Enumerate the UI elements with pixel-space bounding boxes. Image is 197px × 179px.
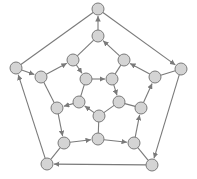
directed-edge: [103, 41, 120, 56]
dodecahedron-graph: [0, 0, 197, 179]
edge: [81, 85, 85, 97]
graph-node-n13: [135, 102, 147, 114]
graph-node-n9: [106, 73, 118, 85]
directed-edge: [144, 83, 153, 102]
directed-edge: [22, 70, 35, 75]
directed-edge: [135, 115, 139, 137]
directed-edge: [70, 140, 91, 143]
edge: [77, 40, 93, 56]
edge: [161, 71, 176, 75]
directed-edge: [103, 13, 175, 65]
edge: [104, 105, 114, 112]
graph-node-n14: [93, 110, 105, 122]
directed-edge: [85, 106, 94, 113]
graph-node-n7: [149, 71, 161, 83]
edge: [21, 13, 93, 65]
directed-edge: [64, 104, 73, 107]
graph-node-n6: [35, 71, 47, 83]
edge: [115, 65, 121, 74]
edge: [138, 148, 148, 161]
directed-edge: [46, 63, 67, 74]
graph-node-n17: [128, 137, 140, 149]
graph-node-n12: [113, 96, 125, 108]
graph-node-n16: [92, 133, 104, 145]
graph-node-n19: [146, 159, 158, 171]
graph-node-n10: [51, 102, 63, 114]
graph-node-n2: [67, 54, 79, 66]
graph-node-n11: [73, 96, 85, 108]
graph-node-n3: [118, 54, 130, 66]
directed-edge: [58, 114, 62, 136]
directed-edge: [54, 164, 146, 165]
directed-edge: [130, 63, 150, 74]
graph-node-n5: [175, 63, 187, 75]
graph-node-n0: [92, 3, 104, 15]
directed-edge: [154, 75, 179, 159]
directed-edge: [104, 140, 127, 143]
directed-edge: [76, 65, 82, 73]
directed-edge: [18, 75, 45, 159]
graph-node-n4: [10, 62, 22, 74]
edge: [44, 82, 54, 102]
directed-edge: [114, 85, 117, 96]
edge: [51, 148, 60, 160]
graph-node-n8: [80, 73, 92, 85]
graph-node-n1: [92, 30, 104, 42]
graph-node-n15: [58, 137, 70, 149]
edge: [125, 104, 135, 107]
graph-node-n18: [41, 158, 53, 170]
